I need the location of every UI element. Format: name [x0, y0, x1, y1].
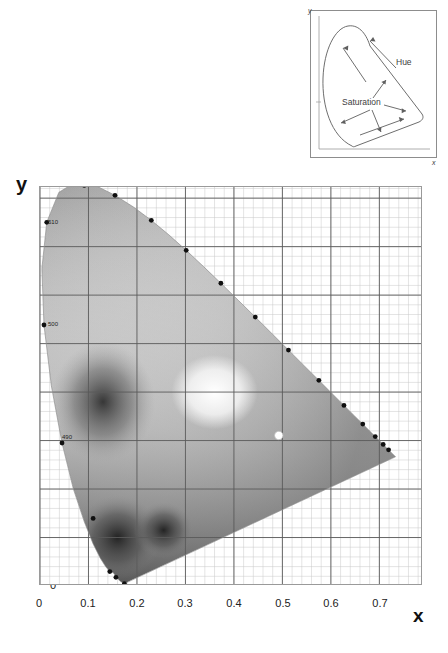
x-tick-0: 0 — [19, 597, 59, 609]
x-axis-title: x — [413, 605, 424, 627]
wavelength-label-490: 490 — [62, 434, 72, 440]
white-point-marker — [275, 431, 283, 439]
inset-hue-label: Hue — [396, 57, 412, 67]
inset-drawing: Hue Saturation — [310, 10, 437, 158]
x-tick-5: 0.5 — [263, 597, 303, 609]
inset-saturation-label: Saturation — [342, 97, 381, 107]
wavelength-label-510: 510 — [48, 219, 58, 225]
x-tick-4: 0.4 — [214, 597, 254, 609]
chromaticity-chart: y x 0 0.1 0.2 0.3 0.4 0.5 0.6 0.7 0.8 0 … — [0, 165, 448, 653]
plot-area: 510 500 490 — [39, 186, 422, 585]
inset-y-axis-label: y — [308, 7, 312, 14]
x-tick-2: 0.2 — [117, 597, 157, 609]
wavelength-label-500: 500 — [48, 321, 58, 327]
x-tick-7: 0.7 — [360, 597, 400, 609]
hue-saturation-inset: Hue Saturation y x — [310, 10, 437, 158]
x-tick-3: 0.3 — [165, 597, 205, 609]
plot-canvas — [40, 187, 422, 585]
x-tick-1: 0.1 — [68, 597, 108, 609]
x-tick-6: 0.6 — [311, 597, 351, 609]
